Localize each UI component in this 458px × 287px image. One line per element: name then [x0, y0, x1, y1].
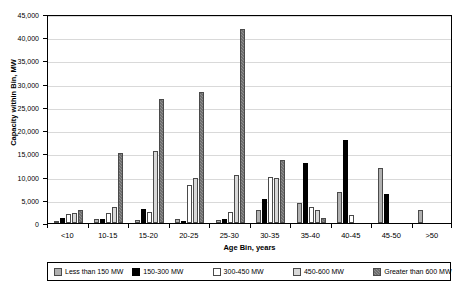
bar	[199, 92, 204, 223]
bar	[309, 207, 314, 223]
x-axis-tick-label: 10-15	[98, 232, 117, 240]
bar	[94, 219, 99, 223]
legend-label: 300-450 MW	[224, 268, 264, 275]
x-axis-tick-mark	[290, 224, 291, 228]
plot-area	[47, 15, 452, 224]
bar-group	[210, 16, 251, 223]
bar	[256, 210, 261, 223]
bar	[234, 175, 239, 223]
bar-series-container	[48, 16, 451, 223]
x-axis-tick-label: 40-45	[341, 232, 360, 240]
bar	[175, 219, 180, 223]
bar-group	[89, 16, 130, 223]
x-axis-tick-label: >50	[425, 232, 438, 240]
y-axis-tick-label: 15,000	[18, 151, 39, 158]
x-axis-tick-mark	[451, 224, 452, 228]
bar	[72, 213, 77, 223]
bar	[343, 140, 348, 223]
bar	[321, 218, 326, 223]
x-axis-tick-label: 25-30	[220, 232, 239, 240]
x-axis-tick-label: 20-25	[179, 232, 198, 240]
bar	[66, 214, 71, 223]
legend-item: Greater than 600 MW	[369, 268, 450, 276]
bar-group	[48, 16, 89, 223]
x-axis-tick-mark	[331, 224, 332, 228]
bar	[378, 168, 383, 223]
y-axis-tick-label: 0	[35, 221, 39, 228]
bar-group	[413, 16, 454, 223]
legend-label: 450-600 MW	[304, 268, 344, 275]
bar	[303, 163, 308, 223]
x-axis-tick-label: 35-40	[301, 232, 320, 240]
x-axis-tick-mark	[371, 224, 372, 228]
bar	[147, 212, 152, 223]
bar	[274, 178, 279, 223]
y-axis-tick-label: 45,000	[18, 12, 39, 19]
legend-swatch-icon	[54, 268, 62, 276]
y-axis-tick-label: 5,000	[21, 197, 39, 204]
bar	[280, 160, 285, 223]
chart-legend: Less than 150 MW150-300 MW300-450 MW450-…	[47, 262, 451, 281]
legend-label: Greater than 600 MW	[384, 268, 451, 275]
x-axis-tick-label: 30-35	[260, 232, 279, 240]
bar	[153, 151, 158, 223]
bar	[106, 213, 111, 223]
bar	[240, 29, 245, 223]
bar	[141, 209, 146, 223]
legend-item: Less than 150 MW	[48, 268, 128, 276]
bar	[100, 219, 105, 223]
bar	[135, 220, 140, 223]
x-axis-tick-mark	[250, 224, 251, 228]
legend-label: Less than 150 MW	[65, 268, 123, 275]
y-axis-tick-label: 30,000	[18, 81, 39, 88]
x-axis-tick-label: 45-50	[382, 232, 401, 240]
bar	[118, 153, 123, 223]
x-axis-tick-mark	[412, 224, 413, 228]
bar	[268, 177, 273, 223]
x-axis-tick-mark	[88, 224, 89, 228]
bar	[60, 218, 65, 223]
legend-swatch-icon	[132, 268, 140, 276]
x-axis-tick-mark	[209, 224, 210, 228]
y-axis: 05,00010,00015,00020,00025,00030,00035,0…	[0, 0, 47, 287]
y-axis-title: Capacity within Bin, MW	[9, 38, 18, 168]
bar	[418, 210, 423, 223]
x-axis-tick-mark	[169, 224, 170, 228]
bar	[216, 220, 221, 223]
legend-swatch-icon	[373, 268, 381, 276]
y-axis-tick-label: 10,000	[18, 174, 39, 181]
bar	[222, 219, 227, 223]
y-axis-tick-label: 40,000	[18, 35, 39, 42]
legend-swatch-icon	[293, 268, 301, 276]
bar	[193, 178, 198, 223]
bar-group	[291, 16, 332, 223]
bar	[349, 215, 354, 223]
bar	[112, 207, 117, 223]
bar	[315, 210, 320, 223]
bar	[384, 194, 389, 223]
legend-item: 300-450 MW	[209, 268, 289, 276]
x-axis-tick-label: 15-20	[139, 232, 158, 240]
x-axis-tick-mark	[47, 224, 48, 228]
bar-group	[129, 16, 170, 223]
y-axis-tick-label: 35,000	[18, 58, 39, 65]
bar-group	[251, 16, 292, 223]
bar	[181, 221, 186, 223]
x-axis-tick-mark	[128, 224, 129, 228]
x-axis-tick-label: <10	[61, 232, 74, 240]
bar	[297, 203, 302, 223]
bar	[187, 185, 192, 223]
legend-swatch-icon	[213, 268, 221, 276]
bar	[78, 210, 83, 223]
chart-figure: 05,00010,00015,00020,00025,00030,00035,0…	[0, 0, 458, 287]
bar-group	[332, 16, 373, 223]
bar	[54, 221, 59, 223]
bar	[337, 192, 342, 223]
legend-item: 150-300 MW	[128, 268, 208, 276]
x-axis-title: Age Bin, years	[47, 243, 452, 252]
bar-group	[372, 16, 413, 223]
legend-label: 150-300 MW	[143, 268, 183, 275]
bar-group	[170, 16, 211, 223]
bar	[262, 199, 267, 223]
y-axis-tick-label: 20,000	[18, 128, 39, 135]
